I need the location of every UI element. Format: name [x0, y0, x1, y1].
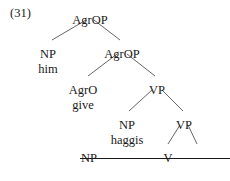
tree-terminal-word-him-top: him [38, 63, 57, 76]
tree-node-vp-lower: VP [176, 119, 192, 132]
tree-terminal-word-give-agro: give [72, 99, 94, 112]
tree-node-agrop-bar: AgrOP [104, 48, 139, 61]
tree-node-np-subj: NP [40, 48, 56, 61]
tree-branch-vp-upper-to-vp-lower [162, 90, 183, 111]
tree-node-agro-head: AgrO [69, 84, 97, 97]
tree-node-np-obj: NP [119, 119, 135, 132]
tree-node-root: AgrOP [72, 14, 107, 27]
tree-terminal-word-haggis: haggis [111, 134, 144, 147]
tree-node-np-trace: NP [81, 152, 230, 165]
tree-terminal-word-give-trace: give [53, 180, 230, 181]
tree-node-vp-upper: VP [149, 84, 165, 97]
syntax-tree-figure: (31) AgrOPNPAgrOPAgrOVPNPVPVNPhimgivehag… [0, 0, 230, 181]
